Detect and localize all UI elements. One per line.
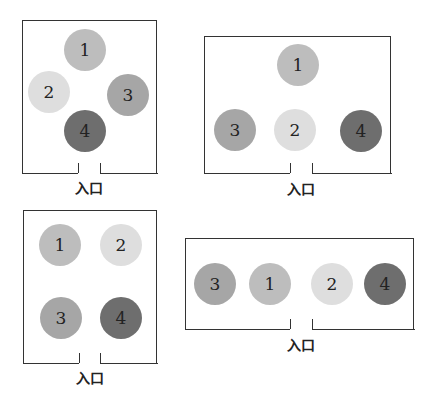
position-marker-2: 2 [100,224,142,266]
room-wall-bottom-left [204,173,290,174]
entrance-label: 入口 [287,334,315,354]
entrance-left-post [290,163,291,173]
entrance-right-post [100,353,101,363]
position-marker-3: 3 [214,109,256,151]
entrance-right-post [100,163,101,173]
position-marker-4: 4 [340,110,382,152]
room-wall-bottom-left [23,363,79,364]
entrance-left-post [79,353,80,363]
position-marker-1: 1 [249,263,291,305]
room-wall-bottom-right [100,173,158,174]
position-marker-2: 2 [311,263,353,305]
entrance-left-post [290,319,291,329]
position-marker-2: 2 [274,109,316,151]
position-marker-3: 3 [40,297,82,339]
room-wall-bottom-right [100,363,158,364]
room-wall-bottom-left [22,173,78,174]
position-marker-3: 3 [194,263,236,305]
position-marker-1: 1 [277,44,319,86]
position-marker-2: 2 [28,71,70,113]
entrance-label: 入口 [76,367,104,387]
position-marker-1: 1 [64,29,106,71]
position-marker-3: 3 [107,74,149,116]
room-wall-bottom-right [312,329,415,330]
entrance-label: 入口 [75,177,103,197]
position-marker-4: 4 [100,297,142,339]
entrance-left-post [78,163,79,173]
room-wall-bottom-right [312,173,392,174]
entrance-right-post [312,163,313,173]
entrance-label: 入口 [287,178,315,198]
position-marker-1: 1 [39,224,81,266]
entrance-right-post [312,319,313,329]
position-marker-4: 4 [364,263,406,305]
room-wall-bottom-left [185,329,290,330]
position-marker-4: 4 [64,110,106,152]
